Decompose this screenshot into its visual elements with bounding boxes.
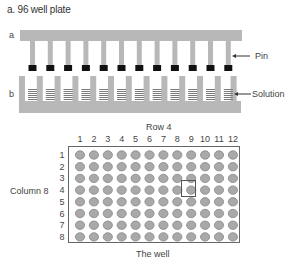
column-number: 5 [133,134,138,144]
well [117,198,126,206]
well [89,233,98,241]
well [131,233,140,241]
well [159,151,168,159]
well [103,209,112,217]
column-number: 6 [147,134,152,144]
well [131,151,140,159]
plate-wall [144,76,150,102]
well [117,151,126,159]
well [117,233,126,241]
well [145,233,154,241]
plate-wall [179,76,185,102]
well [103,174,112,182]
column-number: 9 [189,134,194,144]
well [228,233,237,241]
well [159,174,168,182]
well [201,151,210,159]
column-number: 10 [200,134,210,144]
solution-well [135,89,144,100]
plate-base [19,101,241,113]
solution-well [46,89,55,100]
pin [30,41,35,66]
well [75,151,84,159]
well [187,233,196,241]
pin [137,41,142,66]
plate-wall [90,76,96,102]
well [173,186,182,194]
column-number: 12 [228,134,238,144]
well [145,174,154,182]
well [75,163,84,171]
well [75,233,84,241]
well [145,163,154,171]
pin [208,41,213,66]
solution-well [99,89,108,100]
well [214,233,223,241]
well [89,221,98,229]
solution-well [153,89,162,100]
well [187,163,196,171]
well [75,221,84,229]
solution-label: Solution [252,89,285,99]
pin-tip [46,65,54,71]
well [131,174,140,182]
well [214,186,223,194]
well [159,163,168,171]
pin [101,41,106,66]
wells-grid [75,151,237,241]
well [75,209,84,217]
column-number: 2 [91,134,96,144]
row-number: 4 [59,185,64,195]
well [145,209,154,217]
pin-tip [153,65,161,71]
plate-wall [55,76,61,102]
solution-plate [19,76,241,113]
pin [66,41,71,66]
well [187,174,196,182]
well [103,221,112,229]
row-numbers: 12345678 [59,150,64,242]
well [89,174,98,182]
row-number: 3 [59,173,64,183]
well [228,209,237,217]
well [214,151,223,159]
row-number: 7 [59,220,64,230]
well [214,209,223,217]
pin [119,41,124,66]
row-number: 1 [59,150,64,160]
pin-tip [100,65,108,71]
well [201,209,210,217]
well [117,163,126,171]
row-number: 5 [59,197,64,207]
well [75,174,84,182]
well [75,198,84,206]
pin-tip [171,65,179,71]
row-number: 8 [59,232,64,242]
column-number: 8 [175,134,180,144]
well [75,186,84,194]
solution-well [28,89,37,100]
pin [48,41,53,66]
well [89,186,98,194]
plate-wall [126,76,132,102]
well [159,186,168,194]
well [103,163,112,171]
well [214,174,223,182]
well [89,163,98,171]
plate-caption: The well [136,249,170,259]
solution-well [64,89,73,100]
plate-wall [215,76,221,102]
plate-wall [108,76,114,102]
well [187,151,196,159]
well [117,186,126,194]
well [201,186,210,194]
well [117,174,126,182]
pin [226,41,231,66]
pin-arrow-head-icon [232,54,236,58]
solution-well [206,89,215,100]
pin-tip [118,65,126,71]
solution-well [117,89,126,100]
plate-wall [161,76,167,102]
column-number: 4 [119,134,124,144]
row-header: Row 4 [146,122,172,132]
